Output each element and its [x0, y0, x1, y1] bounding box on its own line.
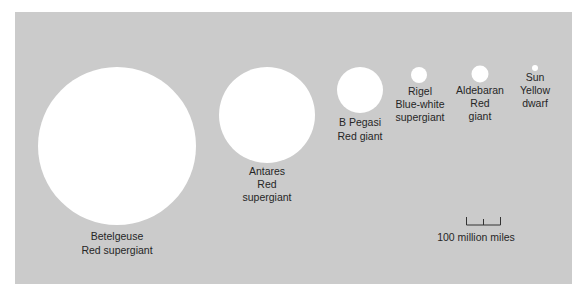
star-name-label: B Pegasi	[339, 116, 381, 128]
star-name-label: Betelgeuse	[91, 230, 144, 242]
star-rigel: RigelBlue-whitesupergiant	[395, 67, 444, 123]
star-circle	[472, 66, 489, 83]
star-circle	[411, 67, 427, 83]
star-type-label: Blue-white	[395, 98, 444, 110]
star-circle	[38, 67, 196, 225]
star-betelgeuse: BetelgeuseRed supergiant	[38, 67, 196, 256]
star-type-label: giant	[469, 110, 492, 122]
star-b-pegasi: B PegasiRed giant	[337, 67, 383, 142]
star-type-label: supergiant	[395, 111, 444, 123]
star-circle	[219, 67, 315, 163]
star-size-diagram: BetelgeuseRed supergiantAntaresRedsuperg…	[0, 0, 586, 295]
star-type-label: Red supergiant	[81, 244, 152, 256]
star-type-label: Yellow	[520, 84, 550, 96]
star-sun: SunYellowdwarf	[520, 65, 550, 109]
star-name-label: Antares	[249, 165, 285, 177]
scale-bar: 100 million miles	[437, 217, 515, 243]
scale-bar-label: 100 million miles	[437, 231, 515, 243]
star-circle	[337, 67, 383, 113]
star-name-label: Sun	[526, 71, 545, 83]
star-type-label: Red	[257, 178, 276, 190]
star-aldebaran: AldebaranRedgiant	[456, 66, 504, 123]
star-type-label: dwarf	[522, 97, 548, 109]
star-type-label: Red	[470, 97, 489, 109]
star-type-label: supergiant	[242, 191, 291, 203]
star-antares: AntaresRedsupergiant	[219, 67, 315, 203]
star-type-label: Red giant	[338, 130, 383, 142]
star-name-label: Rigel	[408, 85, 432, 97]
scale-bar-ticks	[467, 217, 501, 225]
star-name-label: Aldebaran	[456, 84, 504, 96]
